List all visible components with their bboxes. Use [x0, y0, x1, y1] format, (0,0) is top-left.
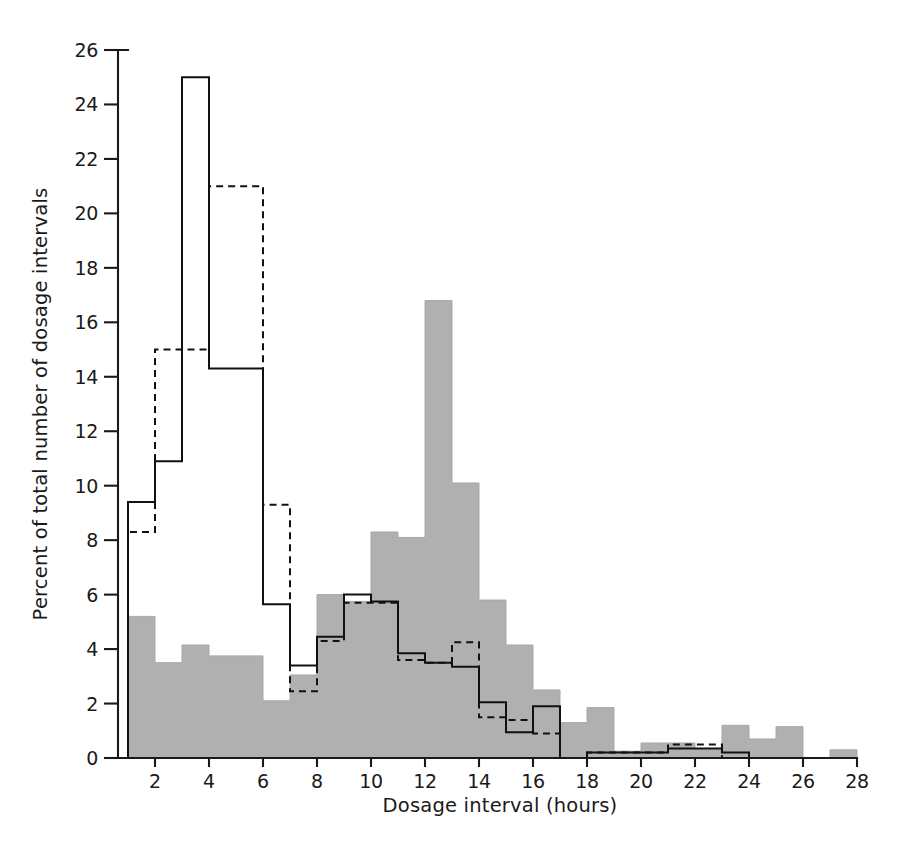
x-tick-label: 6 — [257, 770, 269, 792]
x-tick-label: 22 — [683, 770, 707, 792]
x-tick-label: 8 — [311, 770, 323, 792]
y-tick-label: 22 — [74, 148, 98, 170]
y-axis-title: Percent of total number of dosage interv… — [29, 188, 52, 621]
x-tick-label: 10 — [359, 770, 383, 792]
x-axis-title: Dosage interval (hours) — [383, 794, 618, 817]
chart-figure: 02468101214161820222426 2468101214161820… — [0, 0, 908, 856]
x-tick-label: 18 — [575, 770, 599, 792]
x-tick-label: 14 — [467, 770, 491, 792]
y-tick-label: 20 — [74, 202, 98, 224]
x-tick-label: 4 — [203, 770, 215, 792]
y-axis-ticks — [104, 50, 118, 758]
x-tick-label: 24 — [737, 770, 761, 792]
x-tick-label: 20 — [629, 770, 653, 792]
y-tick-label: 2 — [86, 693, 98, 715]
y-tick-label: 12 — [74, 420, 98, 442]
histogram-plot: 02468101214161820222426 2468101214161820… — [0, 0, 908, 856]
y-axis-tick-labels: 02468101214161820222426 — [74, 39, 98, 769]
y-tick-label: 0 — [86, 747, 98, 769]
x-tick-label: 12 — [413, 770, 437, 792]
y-tick-label: 24 — [74, 93, 98, 115]
y-tick-label: 4 — [86, 638, 98, 660]
y-tick-label: 14 — [74, 366, 98, 388]
x-tick-label: 16 — [521, 770, 545, 792]
y-axis-line — [118, 50, 128, 758]
x-axis-tick-labels: 246810121416182022242628 — [149, 770, 869, 792]
y-tick-label: 8 — [86, 529, 98, 551]
y-tick-label: 10 — [74, 475, 98, 497]
x-tick-label: 26 — [791, 770, 815, 792]
y-tick-label: 26 — [74, 39, 98, 61]
y-tick-label: 6 — [86, 584, 98, 606]
x-tick-label: 28 — [845, 770, 869, 792]
x-axis-ticks — [155, 758, 857, 767]
y-tick-label: 18 — [74, 257, 98, 279]
y-tick-label: 16 — [74, 311, 98, 333]
x-tick-label: 2 — [149, 770, 161, 792]
